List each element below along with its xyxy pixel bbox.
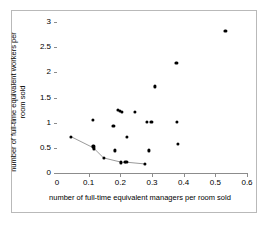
x-tick-label: 0.5 — [202, 178, 228, 187]
y-tick-label-text: 3 — [26, 18, 51, 26]
x-tick-label: 0.4 — [171, 178, 197, 187]
scatter-chart-figure: 00.511.522.53 00.10.20.30.40.50.6 number… — [0, 0, 269, 231]
y-tick-label-text: 0 — [26, 169, 51, 177]
x-tick-label: 0.2 — [107, 178, 133, 187]
y-tick-label: 2 — [26, 68, 51, 76]
y-tick-mark — [54, 173, 57, 174]
y-axis-title: number of full-time equivalent workers p… — [9, 32, 27, 172]
x-tick-mark — [152, 174, 153, 177]
x-tick-label-text: 0 — [44, 178, 70, 187]
y-tick-label: 2.5 — [26, 43, 51, 51]
plot-area — [57, 22, 247, 173]
x-tick-mark — [247, 174, 248, 177]
frontier-polyline — [71, 137, 144, 164]
frontier-line — [57, 22, 247, 173]
y-tick-label: 0 — [26, 169, 51, 177]
y-tick-label-text: 2 — [26, 68, 51, 76]
y-tick-label: 0.5 — [26, 144, 51, 152]
y-tick-label-text: 1 — [26, 119, 51, 127]
y-tick-label: 3 — [26, 18, 51, 26]
x-tick-label-text: 0.3 — [139, 178, 165, 187]
y-tick-label-text: 0.5 — [26, 144, 51, 152]
x-tick-label-text: 0.4 — [171, 178, 197, 187]
y-tick-label-text: 1.5 — [26, 94, 51, 102]
x-axis-title: number of full-time equivalent managers … — [30, 193, 250, 202]
x-tick-mark — [89, 174, 90, 177]
x-tick-mark — [215, 174, 216, 177]
x-tick-mark — [120, 174, 121, 177]
y-tick-label: 1 — [26, 119, 51, 127]
x-tick-label-text: 0.2 — [107, 178, 133, 187]
x-tick-label-text: 0.1 — [76, 178, 102, 187]
y-tick-label-text: 2.5 — [26, 43, 51, 51]
x-tick-label: 0 — [44, 178, 70, 187]
x-tick-label-text: 0.5 — [202, 178, 228, 187]
x-tick-label-text: 0.6 — [234, 178, 260, 187]
x-tick-mark — [184, 174, 185, 177]
x-tick-label: 0.3 — [139, 178, 165, 187]
y-tick-label: 1.5 — [26, 94, 51, 102]
x-tick-label: 0.1 — [76, 178, 102, 187]
x-tick-label: 0.6 — [234, 178, 260, 187]
